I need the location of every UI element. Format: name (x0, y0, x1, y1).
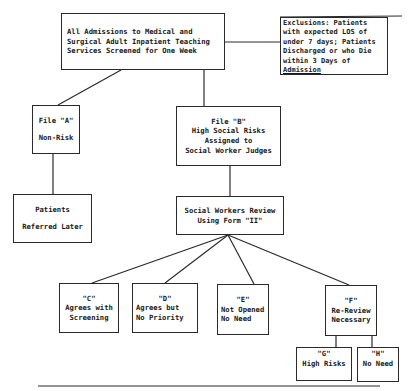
node-text: Agrees with (65, 303, 113, 313)
node-text: "E" (237, 295, 250, 305)
node-text: High Social Risks (192, 126, 266, 136)
node-text: Patients (35, 205, 70, 215)
node-text: Surgical Adult Inpatient Teaching (67, 37, 210, 47)
node-file-b: File "B" High Social Risks Assigned to S… (176, 106, 281, 166)
node-text: Assigned to (205, 136, 253, 146)
node-all-admissions: All Admissions to Medical and Surgical A… (61, 13, 225, 70)
node-text: within 3 Days of (283, 57, 350, 66)
node-patients-referred-later: Patients Referred Later (13, 194, 92, 243)
edge-review-c (92, 235, 228, 283)
node-text: Agrees but (136, 303, 179, 313)
node-text: Social Worker Judges (185, 146, 272, 156)
node-text: "G" (318, 349, 331, 359)
node-text: Exclusions: Patients (283, 19, 367, 28)
node-text: "D" (159, 294, 172, 304)
node-text: under 7 days; Patients (283, 38, 376, 47)
node-text: Re-Review (332, 306, 371, 316)
edge-review-e (228, 235, 254, 284)
node-h-no-need: "H" No Need (357, 347, 399, 382)
node-c-agrees-with-screening: "C" Agrees with Screening (59, 283, 119, 333)
node-text: No Need (363, 359, 393, 369)
node-text: "C" (83, 294, 96, 304)
node-text: "H" (372, 349, 385, 359)
node-text: Not Opened (221, 305, 264, 315)
node-text: Non-Risk (39, 133, 74, 143)
node-g-high-risks: "G" High Risks (296, 347, 352, 381)
node-text: Referred Later (22, 222, 83, 232)
node-text: Services Screened for One Week (67, 46, 197, 56)
node-exclusions: Exclusions: Patients with expected LOS o… (280, 17, 388, 75)
node-text: File "A" (39, 116, 74, 126)
node-text: Necessary (332, 315, 371, 325)
node-text: No Priority (136, 313, 184, 323)
edge-review-f (228, 235, 349, 285)
node-text: File "B" (211, 117, 246, 127)
node-file-a: File "A" Non-Risk (32, 105, 80, 154)
node-social-workers-review: Social Workers Review Using Form "II" (176, 196, 284, 235)
node-d-agrees-no-priority: "D" Agrees but No Priority (132, 283, 198, 333)
node-text: High Risks (302, 359, 345, 369)
node-text: "F" (345, 296, 358, 306)
node-e-not-opened: "E" Not Opened No Need (217, 284, 269, 335)
edge-review-d (165, 235, 228, 283)
node-text: No Need (221, 314, 251, 324)
node-text: Discharged or who Die (283, 47, 372, 56)
node-text: Admission (283, 66, 321, 75)
node-text: Screening (70, 313, 109, 323)
node-text: with expected LOS of (283, 28, 367, 37)
node-text: Using Form "II" (198, 216, 263, 226)
node-text: All Admissions to Medical and (67, 27, 193, 37)
node-text: Social Workers Review (185, 206, 276, 216)
edge-root-file-a (58, 70, 121, 105)
flowchart-canvas: All Admissions to Medical and Surgical A… (0, 0, 410, 391)
node-f-re-review-necessary: "F" Re-Review Necessary (325, 285, 377, 336)
